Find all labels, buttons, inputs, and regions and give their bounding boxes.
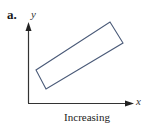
x-axis-label: x [136, 95, 141, 107]
y-axis-label: y [31, 8, 36, 20]
figure-caption: Increasing [0, 111, 154, 123]
diagram-svg [0, 0, 154, 128]
part-label: a. [7, 7, 17, 23]
y-axis-arrow-icon [26, 22, 32, 31]
figure-canvas [0, 0, 154, 128]
tilted-rectangle [36, 22, 123, 89]
x-axis-arrow-icon [125, 101, 134, 107]
